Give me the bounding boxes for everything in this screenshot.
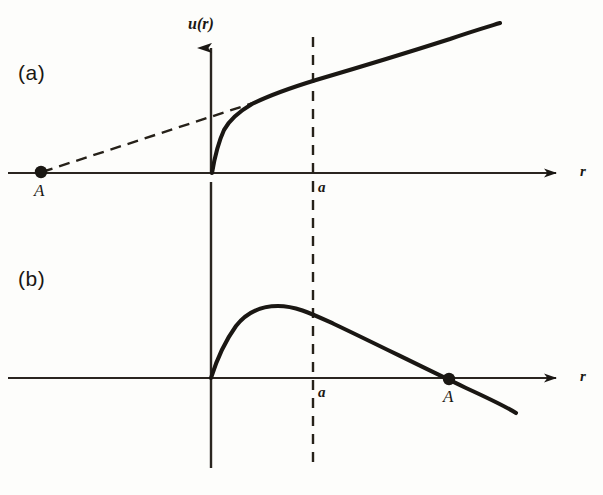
panel-b-tick-label-a: a	[318, 385, 326, 400]
panel-b-point-A-label: A	[443, 388, 453, 405]
panel-b-group	[8, 182, 556, 468]
panel-a-point-A-label: A	[34, 182, 44, 199]
figure-svg	[0, 0, 603, 495]
panel-a-tick-label-a: a	[318, 180, 326, 195]
figure-container: (a) (b) u(r) r r a a A A	[0, 0, 603, 495]
panel-a-tangent-dashed-line	[42, 102, 256, 172]
y-axis-label: u(r)	[188, 16, 214, 32]
panel-a-potential-curve	[212, 23, 500, 173]
panel-b-x-axis-label: r	[580, 369, 586, 384]
panel-a-group	[8, 23, 556, 182]
panel-b-label: (b)	[18, 268, 45, 289]
panel-a-point-A-marker	[35, 166, 47, 178]
panel-a-x-axis-label: r	[580, 164, 586, 179]
panel-a-label: (a)	[18, 62, 45, 83]
panel-b-point-A-marker	[443, 373, 455, 385]
panel-b-potential-curve	[211, 306, 516, 413]
